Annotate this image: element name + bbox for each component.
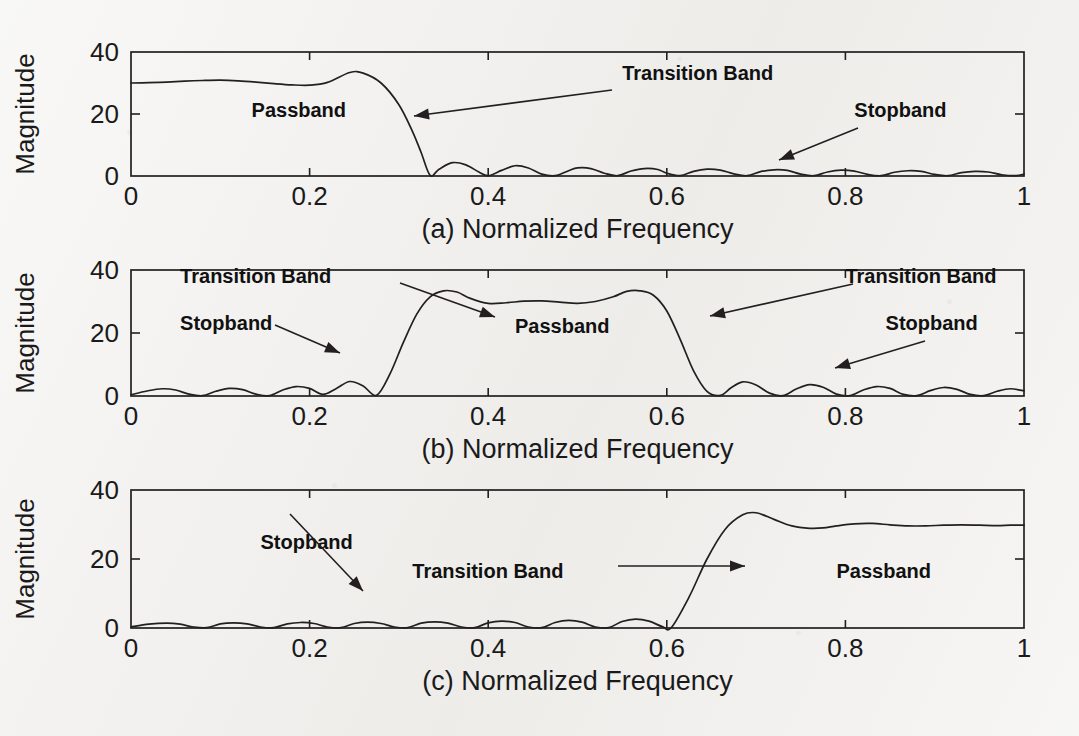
y-tick-label: 40: [90, 37, 119, 67]
chart-panel-c: 00.20.40.60.8102040Magnitude(c) Normaliz…: [0, 478, 1079, 736]
x-tick-label: 0.8: [827, 633, 863, 663]
stopband-arrow: [779, 128, 858, 160]
x-tick-label: 0.4: [470, 401, 506, 431]
y-tick-label: 40: [90, 475, 119, 505]
y-tick-label: 0: [105, 161, 119, 191]
x-tick-label: 0: [124, 633, 138, 663]
chart-svg-a: 00.20.40.60.8102040Magnitude(a) Normaliz…: [0, 0, 1079, 245]
annotation-label: Passband: [252, 99, 346, 121]
annotation-label: Passband: [515, 315, 609, 337]
y-axis-title: Magnitude: [10, 53, 40, 174]
chart-panel-a: 00.20.40.60.8102040Magnitude(a) Normaliz…: [0, 0, 1079, 245]
x-tick-label: 0.8: [827, 401, 863, 431]
x-axis-title: (b) Normalized Frequency: [421, 434, 734, 464]
chart-svg-b: 00.20.40.60.8102040Magnitude(b) Normaliz…: [0, 240, 1079, 485]
annotation-label: Transition Band: [180, 265, 331, 287]
transition-band-arrow-left: [400, 283, 495, 317]
chart-svg-c: 00.20.40.60.8102040Magnitude(c) Normaliz…: [0, 478, 1079, 736]
x-tick-label: 0.8: [827, 181, 863, 211]
stopband-arrow-left: [275, 325, 340, 353]
y-axis-title: Magnitude: [10, 498, 40, 619]
annotation-label: Passband: [836, 560, 930, 582]
response-curve: [131, 71, 1024, 176]
annotation-label: Transition Band: [412, 560, 563, 582]
annotation-label: Stopband: [886, 312, 978, 334]
transition-band-arrow-right: [710, 284, 853, 318]
x-tick-label: 0.6: [649, 633, 685, 663]
response-curve: [131, 290, 1024, 395]
y-tick-label: 20: [90, 99, 119, 129]
x-tick-label: 0: [124, 181, 138, 211]
x-tick-label: 1: [1017, 633, 1031, 663]
annotation-label: Transition Band: [622, 62, 773, 84]
chart-panel-b: 00.20.40.60.8102040Magnitude(b) Normaliz…: [0, 240, 1079, 485]
y-tick-label: 0: [105, 613, 119, 643]
x-axis-title: (c) Normalized Frequency: [422, 666, 733, 696]
x-tick-label: 0.2: [292, 401, 328, 431]
stopband-arrow-right: [835, 341, 925, 369]
annotation-label: Stopband: [180, 312, 272, 334]
y-tick-label: 20: [90, 318, 119, 348]
x-tick-label: 1: [1017, 181, 1031, 211]
y-axis-title: Magnitude: [10, 272, 40, 393]
x-tick-label: 0.2: [292, 633, 328, 663]
annotation-label: Transition Band: [845, 265, 996, 287]
x-tick-label: 0.6: [649, 401, 685, 431]
transition-band-arrow: [414, 90, 612, 120]
y-tick-label: 0: [105, 381, 119, 411]
x-tick-label: 0.4: [470, 181, 506, 211]
annotation-label: Stopband: [260, 531, 352, 553]
annotation-label: Stopband: [854, 99, 946, 121]
x-tick-label: 0.6: [649, 181, 685, 211]
x-tick-label: 0.2: [292, 181, 328, 211]
x-tick-label: 0.4: [470, 633, 506, 663]
transition-band-arrow: [618, 560, 745, 571]
x-tick-label: 0: [124, 401, 138, 431]
y-tick-label: 20: [90, 544, 119, 574]
x-tick-label: 1: [1017, 401, 1031, 431]
y-tick-label: 40: [90, 255, 119, 285]
